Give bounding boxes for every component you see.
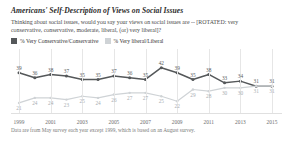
chart-footnote: Data are from May survey each year excep… <box>11 127 279 133</box>
data-point-label: 34 <box>238 73 243 79</box>
data-point-marker <box>223 81 226 84</box>
legend-swatch-liberal <box>105 38 111 44</box>
gridline <box>209 49 210 113</box>
legend-label-liberal: % Very liberal/Liberal <box>114 38 164 44</box>
data-point-label: 29 <box>190 92 195 98</box>
data-point-label: 24 <box>95 100 100 106</box>
legend-item-conservative: % Very Conservative/Conservative <box>11 38 99 44</box>
data-point-marker <box>128 76 131 79</box>
data-point-label: 30 <box>238 90 243 96</box>
data-point-marker <box>191 78 194 81</box>
data-point-label: 22 <box>174 103 179 109</box>
data-point-marker <box>65 75 68 78</box>
data-point-label: 30 <box>222 90 227 96</box>
data-point-label: 31 <box>269 78 274 84</box>
x-axis-tick-label: 2013 <box>235 119 246 125</box>
x-axis-tick-label: 2005 <box>108 119 119 125</box>
chart-title: Americans' Self-Description of Views on … <box>11 6 279 16</box>
data-point-label: 38 <box>206 67 211 73</box>
data-point-label: 39 <box>16 65 21 71</box>
data-point-label: 36 <box>127 70 132 76</box>
data-point-label: 36 <box>32 70 37 76</box>
x-axis-tick-label: 2001 <box>45 119 56 125</box>
data-point-label: 31 <box>269 88 274 94</box>
gridline <box>146 49 147 113</box>
data-point-marker <box>34 97 36 99</box>
x-axis-tick-label: 2009 <box>172 119 183 125</box>
data-point-label: 31 <box>254 78 259 84</box>
data-point-marker <box>192 89 194 91</box>
data-point-label: 21 <box>16 105 21 111</box>
plot-area: 1999200120032005200720092011201320153936… <box>11 47 282 125</box>
data-point-label: 28 <box>206 93 211 99</box>
chart-legend: % Very Conservative/Conservative % Very … <box>11 38 279 44</box>
data-point-label: 33 <box>222 75 227 81</box>
data-point-marker <box>97 78 100 81</box>
data-point-marker <box>160 95 162 97</box>
x-axis-tick-label: 2003 <box>77 119 88 125</box>
data-point-label: 24 <box>48 100 53 106</box>
data-point-marker <box>128 92 130 94</box>
chart-card: Americans' Self-Description of Views on … <box>0 0 287 160</box>
data-point-label: 26 <box>111 97 116 103</box>
x-axis-tick-label: 1999 <box>14 119 25 125</box>
x-axis-tick-label: 2015 <box>267 119 278 125</box>
data-point-label: 35 <box>190 72 195 78</box>
gridline <box>114 49 115 113</box>
data-point-label: 37 <box>64 68 69 74</box>
gridline <box>240 49 241 113</box>
legend-swatch-conservative <box>11 38 17 44</box>
legend-item-liberal: % Very liberal/Liberal <box>105 38 164 44</box>
data-point-label: 24 <box>32 100 37 106</box>
data-point-label: 27 <box>143 95 148 101</box>
gridline <box>19 49 20 113</box>
data-point-label: 35 <box>143 72 148 78</box>
data-point-label: 38 <box>48 67 53 73</box>
data-point-label: 31 <box>254 88 259 94</box>
data-point-marker <box>160 66 163 69</box>
data-point-label: 23 <box>64 102 69 108</box>
data-point-label: 35 <box>80 72 85 78</box>
x-axis-tick-label: 2011 <box>203 119 214 125</box>
data-point-label: 37 <box>111 68 116 74</box>
data-point-label: 35 <box>95 72 100 78</box>
data-point-label: 27 <box>127 95 132 101</box>
chart-subtitle: Thinking about social issues, would you … <box>11 19 263 34</box>
data-point-label: 39 <box>174 65 179 71</box>
legend-label-conservative: % Very Conservative/Conservative <box>20 38 99 44</box>
data-point-marker <box>33 76 36 79</box>
data-point-label: 25 <box>159 98 164 104</box>
data-point-label: 25 <box>80 98 85 104</box>
data-point-marker <box>223 87 225 89</box>
x-axis-tick-label: 2007 <box>140 119 151 125</box>
data-point-label: 42 <box>159 60 164 66</box>
data-point-marker <box>65 99 67 101</box>
data-point-marker <box>97 97 99 99</box>
data-point-marker <box>255 85 257 87</box>
